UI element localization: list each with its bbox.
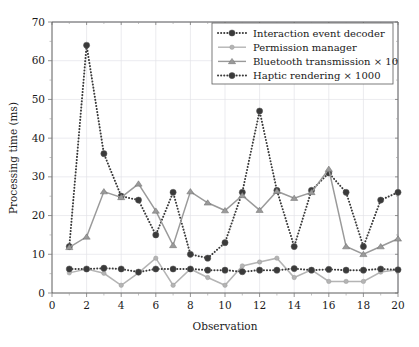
data-point bbox=[66, 266, 72, 272]
y-axis-title: Processing time (ms) bbox=[7, 102, 19, 214]
data-point bbox=[257, 260, 261, 264]
legend-marker bbox=[230, 45, 234, 49]
data-point bbox=[84, 266, 90, 272]
x-tick-label: 0 bbox=[49, 299, 56, 311]
y-tick-label: 40 bbox=[32, 132, 45, 144]
data-point bbox=[378, 266, 384, 272]
data-point bbox=[223, 283, 227, 287]
data-point bbox=[205, 267, 211, 273]
data-point bbox=[170, 189, 176, 195]
data-point bbox=[275, 256, 279, 260]
data-point bbox=[222, 240, 228, 246]
data-point bbox=[170, 242, 177, 247]
data-point bbox=[222, 267, 228, 273]
x-tick-label: 6 bbox=[152, 299, 159, 311]
legend-label: Haptic rendering × 1000 bbox=[253, 70, 381, 81]
data-point bbox=[135, 181, 142, 186]
data-point bbox=[378, 197, 384, 203]
data-point bbox=[292, 275, 296, 279]
series-1 bbox=[67, 256, 400, 287]
series-line bbox=[69, 169, 398, 254]
data-point bbox=[343, 267, 349, 273]
data-point bbox=[152, 208, 159, 213]
data-point bbox=[187, 266, 193, 272]
data-point bbox=[153, 232, 159, 238]
x-tick-label: 4 bbox=[118, 299, 125, 311]
data-point bbox=[325, 166, 332, 171]
series-3 bbox=[66, 265, 401, 275]
data-point bbox=[274, 267, 280, 273]
data-point bbox=[394, 236, 401, 241]
x-tick-label: 2 bbox=[83, 299, 90, 311]
y-tick-label: 70 bbox=[32, 16, 45, 28]
data-point bbox=[361, 279, 365, 283]
data-point bbox=[395, 267, 401, 273]
y-tick-label: 50 bbox=[32, 93, 45, 105]
x-tick-label: 8 bbox=[187, 299, 194, 311]
data-point bbox=[326, 266, 332, 272]
data-point bbox=[240, 264, 244, 268]
data-point bbox=[119, 283, 123, 287]
line-chart-svg: 01020304050607002468101214161820 Interac… bbox=[0, 0, 419, 347]
data-point bbox=[344, 279, 348, 283]
legend-marker bbox=[229, 30, 235, 36]
data-point bbox=[360, 243, 366, 249]
data-point bbox=[395, 189, 401, 195]
legend-label: Permission manager bbox=[253, 42, 357, 53]
y-tick-label: 0 bbox=[38, 287, 45, 299]
data-point bbox=[239, 269, 245, 275]
data-point bbox=[135, 269, 141, 275]
data-point bbox=[291, 266, 297, 272]
y-tick-label: 20 bbox=[32, 209, 45, 221]
x-tick-label: 12 bbox=[253, 299, 266, 311]
legend-label: Bluetooth transmission × 10 bbox=[253, 56, 398, 67]
data-point bbox=[100, 189, 107, 194]
x-tick-label: 10 bbox=[218, 299, 231, 311]
x-tick-label: 20 bbox=[391, 299, 404, 311]
data-point bbox=[187, 251, 193, 257]
data-point bbox=[153, 266, 159, 272]
data-point bbox=[187, 189, 194, 194]
data-point bbox=[291, 243, 297, 249]
x-tick-label: 18 bbox=[357, 299, 370, 311]
data-point bbox=[154, 256, 158, 260]
data-point bbox=[206, 275, 210, 279]
y-tick-label: 60 bbox=[32, 54, 45, 66]
data-point bbox=[171, 283, 175, 287]
data-point bbox=[102, 271, 106, 275]
y-tick-label: 30 bbox=[32, 170, 45, 182]
data-point bbox=[135, 197, 141, 203]
data-point bbox=[101, 151, 107, 157]
legend-marker bbox=[229, 73, 235, 79]
series-2 bbox=[66, 166, 402, 256]
data-point bbox=[343, 244, 350, 249]
x-tick-label: 16 bbox=[322, 299, 336, 311]
legend-label: Interaction event decoder bbox=[253, 28, 385, 39]
data-point bbox=[205, 255, 211, 261]
data-point bbox=[101, 265, 107, 271]
y-tick-label: 10 bbox=[32, 248, 45, 260]
data-point bbox=[360, 267, 366, 273]
x-axis-title: Observation bbox=[193, 320, 258, 332]
chart-legend: Interaction event decoderPermission mana… bbox=[212, 23, 398, 84]
chart-figure: 01020304050607002468101214161820 Interac… bbox=[0, 0, 419, 347]
data-point bbox=[257, 108, 263, 114]
data-point bbox=[118, 266, 124, 272]
data-point bbox=[308, 267, 314, 273]
data-point bbox=[170, 266, 176, 272]
data-point bbox=[84, 42, 90, 48]
data-point bbox=[83, 234, 90, 239]
data-point bbox=[327, 279, 331, 283]
x-tick-label: 14 bbox=[288, 299, 302, 311]
data-point bbox=[343, 189, 349, 195]
data-point bbox=[257, 267, 263, 273]
